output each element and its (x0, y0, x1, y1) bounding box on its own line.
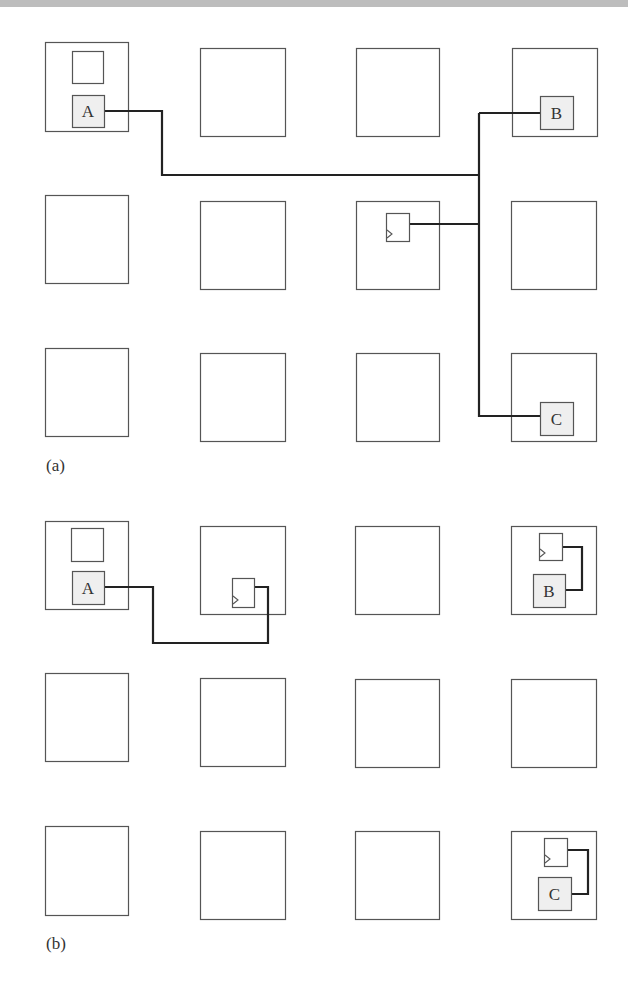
logic-tile (46, 827, 129, 916)
flipflop (387, 214, 410, 242)
logic-tile (46, 674, 129, 762)
logic-tile (357, 354, 440, 442)
cell-label: A (82, 102, 95, 121)
panel-a-caption: (a) (46, 456, 65, 476)
logic-tile (356, 832, 440, 920)
cell-label: A (82, 579, 95, 598)
panel-b-caption: (b) (46, 934, 66, 954)
cell-label: B (551, 104, 562, 123)
logic-tile (46, 196, 129, 284)
logic-tile (46, 349, 129, 437)
cell-label: C (549, 885, 560, 904)
cell-label: B (543, 582, 554, 601)
flipflop (540, 534, 563, 561)
logic-tile (356, 680, 440, 768)
logic-tile (356, 527, 440, 615)
empty-cell (73, 52, 104, 84)
floorplan-diagram: ABCABC (0, 0, 628, 1001)
logic-tile (201, 832, 286, 920)
logic-tile (512, 680, 597, 768)
flipflop (545, 839, 568, 867)
logic-tile (201, 354, 286, 442)
logic-tile (201, 202, 286, 290)
logic-tile (201, 679, 286, 767)
empty-cell (72, 529, 104, 562)
flipflop (233, 579, 255, 608)
cell-label: C (551, 410, 562, 429)
logic-tile (201, 49, 286, 137)
logic-tile (512, 202, 597, 290)
logic-tile (357, 49, 440, 137)
